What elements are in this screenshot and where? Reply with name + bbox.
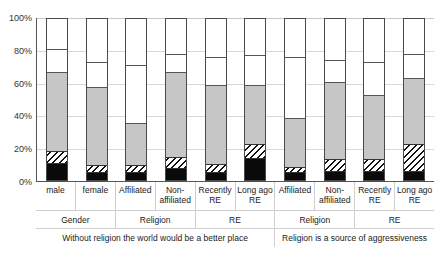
x-axis-labels: malefemaleAffiliatedNon-affiliatedRecent… xyxy=(36,182,434,247)
group-label: Gender xyxy=(36,211,116,228)
bar-segment-black xyxy=(245,159,265,180)
bar-segment-gray xyxy=(404,78,424,144)
topic-label: Without religion the world would be a be… xyxy=(36,229,275,247)
bar-segment-black xyxy=(404,172,424,180)
y-tick-label: 40% xyxy=(14,112,32,121)
bar-slot xyxy=(37,18,77,181)
bar-segment-gray xyxy=(126,123,146,166)
bar-segment-black xyxy=(364,172,384,180)
bar-slot xyxy=(196,18,236,181)
bar-segment-black xyxy=(166,169,186,180)
bar-segment-gray xyxy=(47,72,67,151)
bar-slot xyxy=(355,18,395,181)
category-label: Recently RE xyxy=(196,182,236,210)
bar-slot xyxy=(275,18,315,181)
group-label: Religion xyxy=(275,211,355,228)
stacked-bar[interactable] xyxy=(403,18,425,181)
category-label: Long ago RE xyxy=(395,182,434,210)
bar-segment-black xyxy=(285,173,305,180)
bar-segment-gray xyxy=(245,85,265,144)
bar-segment-white xyxy=(206,57,226,85)
y-axis: 0%20%40%60%80%100% xyxy=(0,0,36,190)
bar-segment-gray xyxy=(87,87,107,166)
stacked-bar-chart: 0%20%40%60%80%100% malefemaleAffiliatedN… xyxy=(0,0,441,260)
stacked-bar[interactable] xyxy=(165,18,187,181)
category-label: Recently RE xyxy=(355,182,395,210)
bar-segment-white xyxy=(325,60,345,81)
bar-segment-black xyxy=(325,172,345,180)
stacked-bar[interactable] xyxy=(125,18,147,181)
category-label: Affiliated xyxy=(275,182,315,210)
bar-slot xyxy=(116,18,156,181)
bar-segment-gray xyxy=(325,82,345,159)
bar-slot xyxy=(156,18,196,181)
category-label: Affiliated xyxy=(116,182,156,210)
y-tick-label: 80% xyxy=(14,46,32,55)
bar-segment-black xyxy=(206,173,226,180)
stacked-bar[interactable] xyxy=(46,18,68,181)
topic-label: Religion is a source of aggressiveness xyxy=(275,229,434,247)
group-label: RE xyxy=(196,211,276,228)
bars-layer xyxy=(37,18,434,181)
bar-segment-hatched xyxy=(166,157,186,168)
stacked-bar[interactable] xyxy=(205,18,227,181)
bar-slot xyxy=(394,18,434,181)
category-label: Non-affiliated xyxy=(156,182,196,210)
bar-segment-gray xyxy=(166,72,186,157)
y-tick-label: 20% xyxy=(14,145,32,154)
bar-segment-gray xyxy=(285,118,305,167)
y-tick-label: 100% xyxy=(9,14,32,23)
topic-label-row: Without religion the world would be a be… xyxy=(36,228,434,247)
category-label: female xyxy=(76,182,116,210)
bar-segment-gray xyxy=(206,85,226,164)
stacked-bar[interactable] xyxy=(244,18,266,181)
y-tick-label: 60% xyxy=(14,79,32,88)
bar-slot xyxy=(77,18,117,181)
group-label: Religion xyxy=(116,211,196,228)
bar-segment-black xyxy=(87,173,107,180)
bar-segment-white xyxy=(364,62,384,95)
bar-segment-white xyxy=(285,57,305,118)
bar-segment-black xyxy=(47,164,67,180)
bar-segment-hatched xyxy=(364,159,384,172)
bar-slot xyxy=(236,18,276,181)
category-label: Non-affiliated xyxy=(315,182,355,210)
bar-segment-hatched xyxy=(325,159,345,172)
bar-segment-white xyxy=(166,54,186,72)
stacked-bar[interactable] xyxy=(324,18,346,181)
bar-segment-hatched xyxy=(245,144,265,159)
stacked-bar[interactable] xyxy=(284,18,306,181)
bar-slot xyxy=(315,18,355,181)
bar-segment-white xyxy=(87,62,107,87)
bar-segment-hatched xyxy=(126,165,146,173)
plot-area xyxy=(36,18,434,182)
category-label: Long ago RE xyxy=(236,182,276,210)
group-label: RE xyxy=(355,211,434,228)
bar-segment-white xyxy=(245,55,265,85)
bar-segment-hatched xyxy=(47,151,67,164)
y-tick-label: 0% xyxy=(19,178,32,187)
category-label: male xyxy=(36,182,76,210)
bar-segment-white xyxy=(404,54,424,79)
bar-segment-white xyxy=(126,65,146,122)
bar-segment-hatched xyxy=(87,165,107,173)
group-label-row: GenderReligionREReligionRE xyxy=(36,210,434,228)
stacked-bar[interactable] xyxy=(363,18,385,181)
bar-segment-white xyxy=(47,49,67,72)
bar-segment-black xyxy=(126,173,146,180)
bar-segment-gray xyxy=(364,95,384,159)
stacked-bar[interactable] xyxy=(86,18,108,181)
bar-segment-hatched xyxy=(206,164,226,174)
bar-segment-hatched xyxy=(404,144,424,172)
category-label-row: malefemaleAffiliatedNon-affiliatedRecent… xyxy=(36,182,434,210)
